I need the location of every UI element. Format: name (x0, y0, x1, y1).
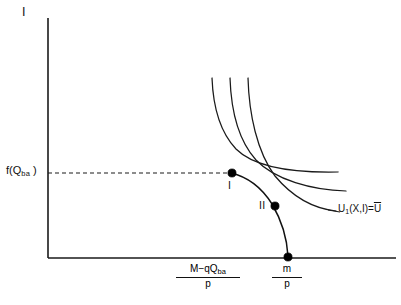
point-marker-3 (284, 253, 292, 261)
y-tick-close: ) (30, 164, 37, 176)
point-marker-1 (228, 169, 236, 177)
indifference-curve-figure: I f(Qba ) I II U1(X,I)=U M−qQba p m p (0, 0, 401, 305)
y-tick-subscript: ba (21, 169, 30, 178)
utility-overline-term: U (374, 203, 381, 214)
x-axis-tick-label-2: m p (272, 264, 302, 290)
y-axis-label: I (22, 6, 25, 19)
y-tick-base: f(Q (6, 164, 21, 176)
point-label-1: I (228, 180, 231, 191)
point-label-2: II (259, 200, 266, 211)
x-tick-1-denominator: p (176, 278, 240, 290)
utility-args: (X,I)= (349, 203, 374, 214)
utility-curve-label: U1(X,I)=U (338, 204, 381, 215)
x-tick-1-numerator: M−qQba (176, 264, 240, 277)
plot-canvas (0, 0, 401, 305)
x-tick-2-numerator: m (272, 264, 302, 277)
constraint-curve (231, 173, 288, 256)
x-axis-tick-label-1: M−qQba p (176, 264, 240, 290)
x-tick-1-numerator-subscript: ba (218, 267, 226, 276)
x-tick-2-numerator-base: m (283, 263, 291, 274)
point-marker-2 (271, 202, 279, 210)
indifference-curve-middle (230, 78, 346, 191)
y-axis-tick-label: f(Qba ) (6, 165, 37, 178)
x-tick-2-denominator: p (272, 278, 302, 290)
x-tick-1-numerator-base: M−qQ (190, 263, 218, 274)
